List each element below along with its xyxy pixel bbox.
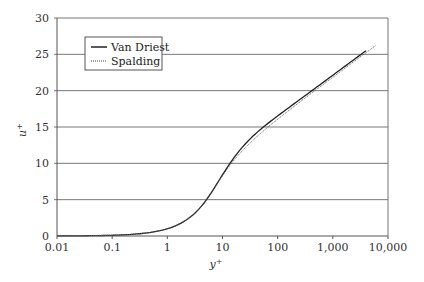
x-tick-label: 0.01	[45, 241, 70, 254]
x-tick-label: 10,000	[369, 241, 408, 254]
y-tick-label: 20	[35, 85, 49, 98]
x-tick-label: 1	[164, 241, 171, 254]
series-spalding	[57, 46, 376, 236]
curves	[57, 46, 376, 236]
legend-label-van-driest: Van Driest	[110, 41, 170, 54]
x-tick-label: 1,000	[317, 241, 349, 254]
y-axis-label: u+	[15, 123, 29, 137]
legend-label-spalding: Spalding	[111, 55, 160, 68]
y-tick-label: 10	[35, 157, 49, 170]
y-tick-label: 5	[42, 194, 49, 207]
x-axis-label: y+	[209, 257, 223, 271]
y-tick-label: 25	[35, 48, 49, 61]
y-tick-label: 15	[35, 121, 49, 134]
y-tick-label: 30	[35, 12, 49, 25]
x-tick-label: 100	[267, 241, 288, 254]
series-van-driest	[57, 51, 366, 236]
x-tick-label: 10	[216, 241, 230, 254]
chart: 0510152025300.010.11101001,00010,000 y+ …	[0, 0, 424, 282]
x-tick-label: 0.1	[103, 241, 121, 254]
legend: Van Driest Spalding	[85, 37, 170, 70]
